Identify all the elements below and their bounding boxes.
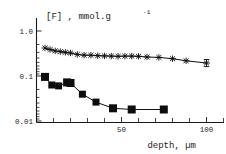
chart-canvas: [F] , mmol.g -1: [0, 0, 226, 154]
y-axis-title-exponent: -1: [143, 9, 151, 16]
series-star-group: [42, 45, 211, 67]
square-markers: [41, 73, 168, 114]
chart-figure: [F] , mmol.g -1: [0, 0, 226, 154]
square-series-line: [45, 77, 164, 110]
y-tick-label-1: 1.0: [19, 28, 33, 36]
y-tick-label-0p01: 0.01: [15, 118, 34, 126]
x-axis-ticks: [54, 117, 224, 123]
x-axis-title: depth, µm: [147, 141, 196, 151]
y-tick-label-0p1: 0.1: [19, 73, 33, 81]
x-tick-label-50: 50: [117, 126, 127, 134]
series-square-group: [41, 73, 168, 114]
x-tick-label-100: 100: [200, 126, 214, 134]
star-markers: [42, 45, 211, 66]
y-axis-title: [F] , mmol.g: [46, 12, 111, 22]
